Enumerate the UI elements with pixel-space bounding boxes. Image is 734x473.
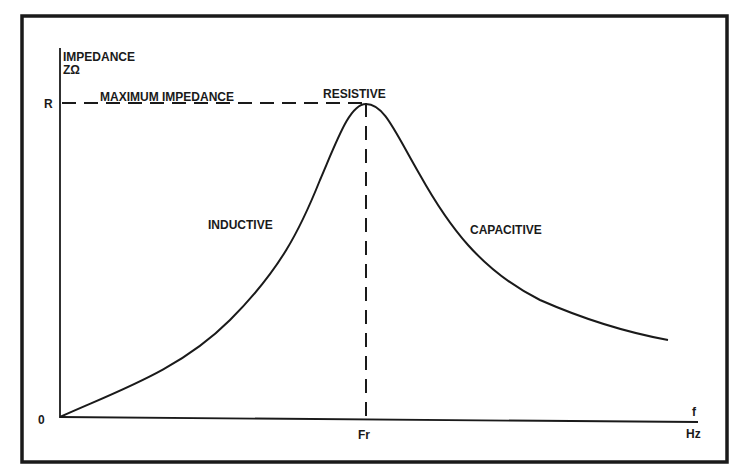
- y-axis-label: IMPEDANCE: [63, 50, 135, 64]
- resonant-frequency-label: Fr: [358, 428, 370, 442]
- x-axis-unit: Hz: [686, 427, 701, 441]
- frame-border: [22, 16, 727, 462]
- inductive-label: INDUCTIVE: [208, 218, 273, 232]
- x-axis: [60, 417, 698, 422]
- impedance-diagram: IMPEDANCE ZΩ R 0 MAXIMUM IMPEDANCE RESIS…: [0, 0, 734, 473]
- capacitive-label: CAPACITIVE: [470, 223, 542, 237]
- max-impedance-label: MAXIMUM IMPEDANCE: [100, 90, 234, 104]
- impedance-curve: [60, 104, 668, 417]
- origin-label: 0: [38, 413, 45, 427]
- resistive-label: RESISTIVE: [323, 87, 386, 101]
- tick-r: R: [44, 97, 53, 111]
- y-axis-unit: ZΩ: [63, 63, 80, 77]
- x-axis-label: f: [692, 405, 697, 419]
